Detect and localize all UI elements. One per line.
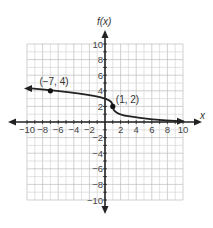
- y-tick-label: 10: [92, 39, 103, 50]
- y-axis-label: f(x): [97, 16, 111, 27]
- y-tick-label: −6: [92, 163, 103, 174]
- x-tick-label: 8: [165, 124, 170, 135]
- x-tick-label: 10: [178, 124, 189, 135]
- y-tick-label: 2: [98, 101, 103, 112]
- y-tick-label: −2: [92, 132, 103, 143]
- point-label: (−7, 4): [39, 76, 68, 87]
- x-tick-label: 2: [118, 124, 123, 135]
- point-label: (1, 2): [116, 94, 139, 105]
- y-tick-label: −4: [92, 148, 103, 159]
- y-tick-label: 6: [98, 70, 103, 81]
- y-tick-label: −10: [87, 195, 103, 206]
- x-tick-label: 4: [134, 124, 139, 135]
- axes: [8, 30, 202, 214]
- point-marker: [110, 104, 115, 109]
- y-tick-label: 4: [98, 85, 103, 96]
- x-tick-label: 6: [149, 124, 154, 135]
- curve-right-branch: [113, 106, 180, 121]
- x-tick-label: −8: [37, 124, 48, 135]
- function-graph: −10−8−6−4−2246810108642−2−4−6−8−10 (−7, …: [0, 0, 213, 228]
- x-tick-label: −6: [53, 124, 64, 135]
- point-marker: [48, 88, 53, 93]
- y-tick-label: −8: [92, 179, 103, 190]
- x-axis-label: x: [199, 110, 206, 121]
- y-tick-label: 8: [98, 54, 103, 65]
- x-tick-label: −4: [68, 124, 79, 135]
- x-tick-label: −10: [19, 124, 35, 135]
